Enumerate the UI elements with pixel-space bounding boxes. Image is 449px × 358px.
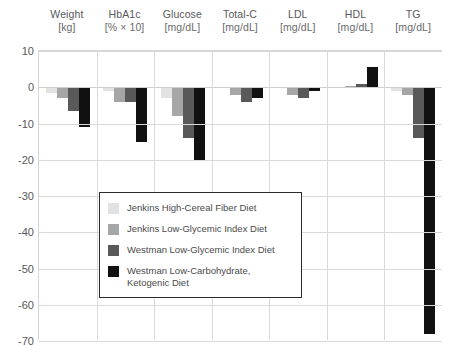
gridline-horizontal (39, 87, 442, 88)
category-name: LDL (288, 8, 308, 20)
y-axis-tick-label: -30 (18, 190, 34, 202)
bar (161, 87, 172, 98)
category-name: TG (406, 8, 421, 20)
bar (125, 87, 136, 102)
y-axis-tick-label: -70 (18, 335, 34, 347)
category-header-weight: Weight[kg] (38, 8, 96, 48)
gridline-horizontal (39, 124, 442, 125)
gridline-vertical (97, 51, 98, 340)
category-unit: [mg/dL] (384, 21, 442, 34)
legend-label: Jenkins Low-Glycemic Index Diet (127, 223, 267, 235)
category-header-row: Weight[kg]HbA1c[% × 10]Glucose[mg/dL]Tot… (38, 8, 442, 48)
gridline-horizontal (39, 341, 442, 342)
legend-label: Westman Low-Glycemic Index Diet (127, 244, 275, 256)
legend-item: Westman Low-Glycemic Index Diet (108, 244, 292, 256)
bar (241, 87, 252, 102)
legend-swatch-icon (108, 266, 119, 277)
bar (79, 87, 90, 127)
y-axis-tick-label: -10 (18, 118, 34, 130)
bar (402, 87, 413, 94)
category-header-glucose: Glucose[mg/dL] (153, 8, 211, 48)
bar (230, 87, 241, 94)
gridline-horizontal (39, 160, 442, 161)
legend-swatch-icon (108, 224, 119, 235)
category-unit: [mg/dL] (211, 21, 269, 34)
legend-item: Jenkins Low-Glycemic Index Diet (108, 223, 292, 235)
y-axis-tick-label: -40 (18, 226, 34, 238)
gridline-horizontal (39, 51, 442, 52)
bar (413, 87, 424, 138)
bar (252, 87, 263, 98)
category-header-total-c: Total-C[mg/dL] (211, 8, 269, 48)
legend-label: Westman Low-Carbohydrate, Ketogenic Diet (127, 265, 292, 288)
bar (172, 87, 183, 116)
category-name: Total-C (223, 8, 257, 20)
gridline-vertical (384, 51, 385, 340)
category-header-hdl: HDL[mg/dL] (327, 8, 385, 48)
category-name: Weight (50, 8, 83, 20)
y-axis-tick-label: 0 (28, 81, 34, 93)
bar (57, 87, 68, 98)
bar (298, 87, 309, 98)
y-axis-tick-label: -50 (18, 263, 34, 275)
y-axis-tick-label: -60 (18, 299, 34, 311)
legend-swatch-icon (108, 245, 119, 256)
y-axis-tick-label: 10 (22, 45, 34, 57)
category-header-ldl: LDL[mg/dL] (269, 8, 327, 48)
y-axis-tick-label: -20 (18, 154, 34, 166)
legend-swatch-icon (108, 203, 119, 214)
category-unit: [mg/dL] (269, 21, 327, 34)
legend-item: Jenkins High-Cereal Fiber Diet (108, 202, 292, 214)
grouped-bar-chart: Weight[kg]HbA1c[% × 10]Glucose[mg/dL]Tot… (0, 0, 449, 358)
bar (68, 87, 79, 111)
category-unit: [kg] (38, 21, 96, 34)
category-name: HDL (345, 8, 366, 20)
category-header-hba1c: HbA1c[% × 10] (96, 8, 154, 48)
category-name: Glucose (163, 8, 202, 20)
bar (114, 87, 125, 102)
bar (136, 87, 147, 141)
bar (287, 87, 298, 94)
legend-item: Westman Low-Carbohydrate, Ketogenic Diet (108, 265, 292, 288)
legend-label: Jenkins High-Cereal Fiber Diet (127, 202, 256, 214)
gridline-vertical (327, 51, 328, 340)
category-unit: [mg/dL] (153, 21, 211, 34)
chart-legend: Jenkins High-Cereal Fiber DietJenkins Lo… (99, 192, 302, 298)
category-name: HbA1c (109, 8, 141, 20)
gridline-horizontal (39, 305, 442, 306)
bar (367, 67, 378, 87)
category-unit: [mg/dL] (327, 21, 385, 34)
category-unit: [% × 10] (96, 21, 154, 34)
bar (183, 87, 194, 138)
category-header-tg: TG[mg/dL] (384, 8, 442, 48)
